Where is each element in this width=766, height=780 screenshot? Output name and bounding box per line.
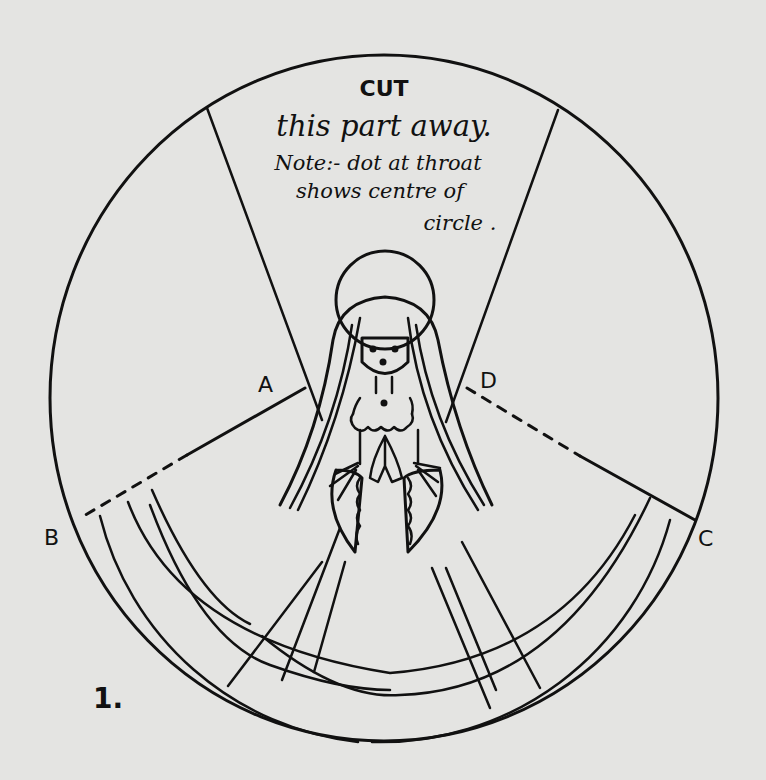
label-d: D [480,368,497,393]
mouth [380,359,387,366]
neck [376,377,392,393]
template-drawing: CUT this part away. Note:- dot at throat… [0,0,766,780]
sleeve-left-lines [330,463,358,500]
fold-line-a-solid [187,388,305,455]
label-b: B [44,525,59,550]
eye-left [370,346,377,353]
instruction-note-line-2: Note:- dot at throat [273,151,482,175]
label-c: C [698,526,713,551]
sleeve-right-frill [408,478,412,544]
throat-centre-dot [381,400,388,407]
fold-line-c-solid [580,456,695,520]
instruction-note-line-4: circle . [424,211,497,235]
ray [432,568,490,708]
inner-arc-2 [128,502,635,673]
hair-strand-right-2 [416,325,484,505]
sleeve-right-lines [414,463,440,496]
instruction-line-1: this part away. [276,109,491,143]
cut-heading: CUT [359,76,408,101]
ray [314,562,345,672]
eye-right [392,346,399,353]
fold-line-b-dashed [82,455,187,517]
inner-arc-1b [372,520,670,742]
figure-number: 1. [93,682,123,715]
ray [446,568,496,690]
praying-hands [370,436,402,482]
sleeve-left-frill [356,478,360,544]
diagram-canvas: CUT this part away. Note:- dot at throat… [0,0,766,780]
instruction-note-line-3: shows centre of [296,179,467,203]
fold-line-d-dashed [467,388,580,456]
collar-scallop [351,414,413,431]
label-a: A [258,372,273,397]
face [362,338,408,374]
inner-arc-3 [152,490,650,695]
